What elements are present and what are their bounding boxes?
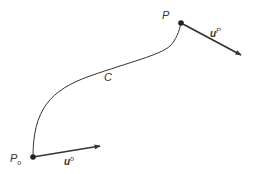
start-vector-label: uo xyxy=(64,155,74,167)
start-point-label: Po xyxy=(10,152,21,166)
curve-c xyxy=(33,23,181,157)
curve-label: C xyxy=(104,71,112,83)
curve-diagram: P uP C Po uo xyxy=(0,0,254,174)
end-vector-label: uP xyxy=(210,27,221,39)
end-point-dot xyxy=(178,20,184,26)
end-point-label: P xyxy=(162,9,170,21)
start-point-dot xyxy=(30,154,36,160)
